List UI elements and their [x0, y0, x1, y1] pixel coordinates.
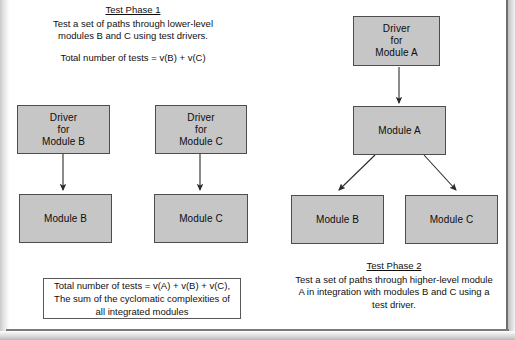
box-driver-b-line-3: Module B [42, 136, 85, 148]
box-module-a-label: Module A [378, 125, 421, 137]
box-module-b-right[interactable]: Module B [291, 195, 384, 244]
box-driver-a-line-3: Module A [375, 47, 418, 59]
box-module-c-left-label: Module C [179, 213, 223, 225]
box-module-b-left[interactable]: Module B [19, 194, 112, 243]
scan-edge-left [0, 0, 10, 340]
box-module-c-right[interactable]: Module C [405, 195, 498, 244]
box-driver-b-line-1: Driver [50, 112, 77, 124]
box-driver-c-line-1: Driver [187, 112, 214, 124]
test-phase-2-line-2: A in integration with modules B and C us… [278, 286, 510, 299]
summary-line-3: integrated modules [108, 306, 189, 317]
box-driver-for-module-b[interactable]: Driver for Module B [17, 105, 110, 154]
box-module-b-right-label: Module B [316, 214, 359, 226]
test-phase-1-line-2: modules B and C using test drivers. [38, 30, 228, 43]
box-module-a[interactable]: Module A [353, 106, 446, 155]
diagram-page: Test Phase 1 Test a set of paths through… [0, 0, 515, 340]
test-phase-2-title: Test Phase 2 [278, 260, 510, 273]
box-driver-for-module-c[interactable]: Driver for Module C [155, 105, 247, 154]
test-phase-2-line-3: test driver. [278, 299, 510, 312]
summary-line-1: Total number of tests = v(A) + v(B) + v(… [54, 280, 230, 291]
box-driver-a-line-2: for [391, 35, 403, 47]
scan-edge-bottom [0, 331, 515, 340]
page-border-bottom [6, 329, 509, 331]
test-phase-2-line-1: Test a set of paths through higher-level… [278, 274, 510, 287]
caption-spacer [38, 43, 228, 52]
summary-textbox: Total number of tests = v(A) + v(B) + v(… [43, 278, 241, 319]
box-driver-c-line-2: for [195, 124, 207, 136]
test-phase-1-line-1: Test a set of paths through lower-level [38, 18, 228, 31]
box-module-c-left[interactable]: Module C [154, 194, 248, 243]
test-phase-1-formula: Total number of tests = v(B) + v(C) [38, 52, 228, 65]
box-module-c-right-label: Module C [430, 214, 474, 226]
test-phase-1-title: Test Phase 1 [38, 4, 228, 17]
box-module-b-left-label: Module B [44, 213, 87, 225]
box-driver-a-line-1: Driver [383, 23, 410, 35]
box-driver-b-line-2: for [58, 124, 70, 136]
test-phase-1-caption: Test Phase 1 Test a set of paths through… [38, 4, 228, 64]
box-driver-c-line-3: Module C [179, 136, 223, 148]
test-phase-2-caption: Test Phase 2 Test a set of paths through… [278, 260, 510, 311]
box-driver-for-module-a[interactable]: Driver for Module A [353, 16, 440, 66]
